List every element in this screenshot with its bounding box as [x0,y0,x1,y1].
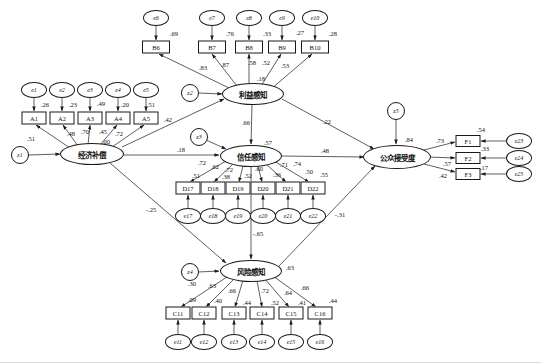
loading-D18: .62 [211,163,219,170]
loading-B10: .53 [281,62,289,69]
stray-zero-label: .00 [102,138,110,145]
arrow-benefit-B10 [271,54,312,89]
coef-economic-to-trust: .18 [177,146,185,153]
indicator-D20: D20 [251,182,276,195]
r2-D20: .36 [273,171,281,178]
arrow-risk-C16 [273,276,316,307]
indicator-B9: B9 [268,41,296,54]
coef-economic-to-benefit: .42 [164,116,172,123]
r2-trust: .57 [264,139,272,146]
disturbance-z5: z5 [387,102,405,120]
indicator-D18: D18 [201,182,226,195]
r2-F3: .17 [480,164,488,171]
coef-benefit-to-trust: .66 [242,119,250,126]
error-e4: e4 [105,82,131,98]
error-e12: e12 [191,334,217,350]
arrow-trust-D19 [239,166,243,182]
error-e23: e23 [506,133,532,149]
r2-B8: .33 [263,30,271,37]
loading-D20: .60 [255,165,263,172]
error-e9: e9 [269,10,295,26]
error-e6: e6 [143,10,169,26]
error-e24: e24 [506,150,532,166]
error-e18: e18 [200,208,226,224]
loading-F2: .57 [443,160,451,167]
arrow-risk-C14 [257,281,262,307]
error-e13: e13 [221,334,247,350]
indicator-B10: B10 [301,41,329,54]
loading-F3: .42 [439,172,447,179]
loading-B8: .58 [248,59,256,66]
loading-C15: .64 [284,289,292,296]
r2-A3: .49 [97,100,105,107]
loading-B6: .83 [199,64,207,71]
indicator-B6: B6 [142,41,170,54]
loading-B9: .52 [262,59,270,66]
r2-B9: .27 [296,29,304,36]
indicator-C16: C16 [308,307,333,320]
error-e17: e17 [175,208,201,224]
r2-C12: .40 [214,297,222,304]
indicator-A5: A5 [134,112,159,125]
loading-A2: .48 [67,130,75,137]
error-e2: e2 [49,82,75,98]
indicator-A2: A2 [50,112,75,125]
coef-trust-to-acceptance: .48 [321,147,329,154]
error-e21: e21 [275,208,301,224]
indicator-C11: C11 [166,307,191,320]
r2-D21: .50 [305,168,313,175]
indicator-A4: A4 [106,112,131,125]
arrow-benefit-to-trust [251,104,252,144]
r2-B6: .69 [170,30,178,37]
r2-C15: .41 [298,299,306,306]
loading-A1: .51 [27,135,35,142]
error-e16: e16 [307,334,333,350]
r2-D18: .38 [222,173,230,180]
error-e1: e1 [21,82,47,98]
loading-C16: .66 [301,284,309,291]
arrow-z1-economic [28,154,60,155]
r2-D19: .52 [244,172,252,179]
r2-D22: .55 [320,171,328,178]
coef-trust-to-risk: -.65 [253,230,263,237]
latent-benefit-perception: 利益感知 [222,83,284,105]
error-e19: e19 [225,208,251,224]
indicator-B7: B7 [198,41,226,54]
r2-B10: .28 [329,30,337,37]
r2-F2: .33 [481,145,489,152]
loading-F1: .73 [436,137,444,144]
error-e11: e11 [165,334,191,350]
loading-C12: .63 [208,282,216,289]
r2-C14: .52 [271,299,279,306]
error-e5: e5 [133,82,159,98]
error-e7: e7 [199,10,225,26]
indicator-D19: D19 [226,182,251,195]
indicator-B8: B8 [235,41,263,54]
indicator-A1: A1 [22,112,47,125]
loading-D17: .72 [198,159,206,166]
error-e25: e25 [506,166,532,182]
r2-acceptance: .84 [405,136,413,143]
disturbance-z3: z3 [190,128,208,146]
error-e15: e15 [278,334,304,350]
indicator-F3: F3 [456,168,481,180]
arrow-benefit-B6 [159,54,229,88]
arrow-risk-C13 [235,280,243,307]
indicator-F2: F2 [456,152,481,164]
indicator-A3: A3 [78,112,103,125]
latent-economic-compensation: 经济补偿 [60,143,124,165]
indicator-D21: D21 [276,182,301,195]
r2-A4: .20 [121,101,129,108]
r2-F1: .54 [477,126,485,133]
error-e8: e8 [236,10,262,26]
loading-D19: .72 [225,166,233,173]
loading-A4: .45 [99,128,107,135]
loading-A3: .70 [81,128,89,135]
arrow-trust-to-acceptance [281,156,364,157]
r2-A2: .23 [69,101,77,108]
indicator-C15: C15 [279,307,304,320]
disturbance-z1: z1 [11,146,29,164]
error-e10: e10 [302,10,328,26]
arrow-z4-risk [198,271,219,272]
coef-economic-to-risk: -.25 [146,206,156,213]
